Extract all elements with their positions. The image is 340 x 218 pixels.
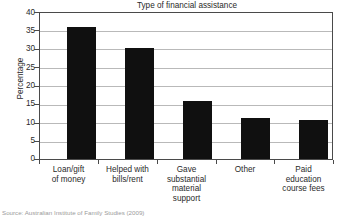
bar-paid-education-course-fees xyxy=(299,120,328,159)
x-category-label-loan-gift-of-money: Loan/gift of money xyxy=(39,165,98,184)
source-note: Source: Australian Institute of Family S… xyxy=(2,209,144,216)
y-tick-label-15: 15 xyxy=(9,100,35,108)
x-category-line1: Helped with xyxy=(98,165,157,175)
y-tick-label-30: 30 xyxy=(9,45,35,53)
y-tick-label-10: 10 xyxy=(9,119,35,127)
x-category-line1: Other xyxy=(216,165,274,175)
x-category-line3: material xyxy=(157,184,216,194)
x-category-line2: of money xyxy=(39,175,98,185)
x-category-line1: Gave xyxy=(157,165,216,175)
x-tick-mark-0 xyxy=(39,160,40,164)
bar-gave-substantial-material-support xyxy=(183,101,212,159)
bar-other xyxy=(241,118,270,159)
y-tick-label-40: 40 xyxy=(9,9,35,17)
y-tick-label-25: 25 xyxy=(9,64,35,72)
x-category-label-paid-education-course-fees: Paid education course fees xyxy=(274,165,333,194)
y-tick-label-20: 20 xyxy=(9,82,35,90)
bar-chart-figure: Type of financial assistance Percentage … xyxy=(0,0,340,218)
bar-loan-gift-of-money xyxy=(67,27,96,159)
bar-helped-with-bills-rent xyxy=(125,48,154,159)
plot-area xyxy=(39,12,333,160)
x-tick-mark-5 xyxy=(333,160,334,164)
x-tick-mark-1 xyxy=(98,160,99,164)
x-tick-mark-2 xyxy=(157,160,158,164)
x-category-line1: Paid xyxy=(274,165,333,175)
x-category-label-helped-with-bills-rent: Helped with bills/rent xyxy=(98,165,157,184)
x-category-line3: course fees xyxy=(274,184,333,194)
x-category-line2: education xyxy=(274,175,333,185)
x-category-line4: support xyxy=(157,194,216,204)
chart-title: Type of financial assistance xyxy=(40,0,334,11)
y-tick-label-0: 0 xyxy=(9,155,35,163)
x-category-line1: Loan/gift xyxy=(39,165,98,175)
x-tick-mark-4 xyxy=(274,160,275,164)
y-tick-label-35: 35 xyxy=(9,27,35,35)
x-tick-mark-3 xyxy=(216,160,217,164)
x-category-line2: bills/rent xyxy=(98,175,157,185)
x-category-label-gave-substantial-material-support: Gave substantial material support xyxy=(157,165,216,203)
y-tick-label-5: 5 xyxy=(9,137,35,145)
x-category-line2: substantial xyxy=(157,175,216,185)
x-category-label-other: Other xyxy=(216,165,274,175)
